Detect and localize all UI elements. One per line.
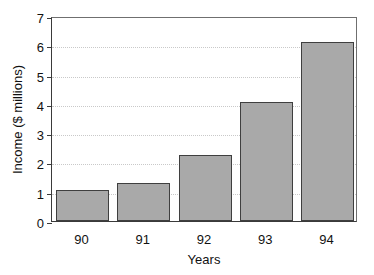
y-axis-tick-label: 5 bbox=[37, 69, 44, 84]
y-axis-tick-label: 1 bbox=[37, 186, 44, 201]
x-axis-tick-label: 92 bbox=[197, 232, 211, 247]
x-axis-tick-label: 94 bbox=[319, 232, 333, 247]
bar-94[interactable] bbox=[301, 42, 354, 221]
y-axis-title: Income ($ millions) bbox=[9, 17, 27, 222]
x-axis-tick-label: 90 bbox=[74, 232, 88, 247]
y-axis-tick bbox=[47, 164, 52, 165]
y-axis-tick bbox=[47, 18, 52, 19]
y-axis-tick bbox=[47, 106, 52, 107]
y-axis-tick-label: 0 bbox=[37, 216, 44, 231]
y-axis-tick bbox=[47, 135, 52, 136]
bar-90[interactable] bbox=[56, 190, 109, 221]
y-axis-tick-label: 7 bbox=[37, 11, 44, 26]
bar-91[interactable] bbox=[117, 183, 170, 221]
y-axis-tick bbox=[47, 194, 52, 195]
y-axis-tick bbox=[47, 77, 52, 78]
bar-93[interactable] bbox=[240, 102, 293, 221]
x-axis-title: Years bbox=[51, 252, 357, 267]
plot-area: 01234567 bbox=[51, 17, 357, 222]
y-axis-tick bbox=[47, 223, 52, 224]
bar-92[interactable] bbox=[179, 155, 232, 221]
bar-chart: Income ($ millions) 01234567 9091929394 … bbox=[0, 0, 374, 275]
y-axis-tick-label: 6 bbox=[37, 40, 44, 55]
y-axis-tick-label: 2 bbox=[37, 157, 44, 172]
x-axis-tick-label: 93 bbox=[258, 232, 272, 247]
y-axis-tick bbox=[47, 47, 52, 48]
y-axis-tick-label: 3 bbox=[37, 128, 44, 143]
x-axis-tick-label: 91 bbox=[136, 232, 150, 247]
y-axis-tick-label: 4 bbox=[37, 98, 44, 113]
